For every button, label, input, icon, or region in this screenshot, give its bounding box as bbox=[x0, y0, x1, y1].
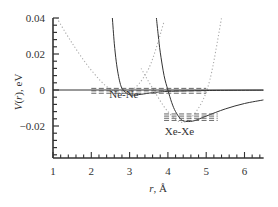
x-tick-label: 5 bbox=[203, 165, 209, 177]
y-tick-label: 0.04 bbox=[26, 12, 46, 24]
xe-xe-harmonic-approximation-line bbox=[141, 18, 221, 122]
y-axis-label: V(r), eV bbox=[12, 74, 25, 111]
ne-ne-harmonic-approximation-line bbox=[57, 18, 164, 93]
x-tick-label: 6 bbox=[242, 165, 248, 177]
x-tick-label: 4 bbox=[165, 165, 171, 177]
x-axis-label: r, Å bbox=[149, 182, 167, 194]
annotation-ne-ne: Ne-Ne bbox=[109, 88, 138, 100]
x-tick-label: 1 bbox=[50, 165, 56, 177]
x-tick-label: 3 bbox=[127, 165, 133, 177]
xlabel-unit: , Å bbox=[153, 182, 167, 194]
y-tick-label: 0.02 bbox=[26, 48, 45, 60]
plot-area bbox=[53, 18, 264, 122]
xe-xe-potential-line bbox=[156, 18, 263, 122]
y-tick-label: 0 bbox=[40, 84, 46, 96]
ne-ne-potential-line bbox=[112, 18, 263, 95]
annotation-xe-xe: Xe-Xe bbox=[165, 125, 194, 137]
potential-energy-chart: 0.040.020−0.02123456Ne-NeXe-Xe V(r), eV … bbox=[0, 0, 278, 207]
y-tick-label: −0.02 bbox=[20, 120, 45, 132]
ylabel-unit: ), eV bbox=[12, 74, 25, 96]
x-tick-label: 2 bbox=[89, 165, 95, 177]
